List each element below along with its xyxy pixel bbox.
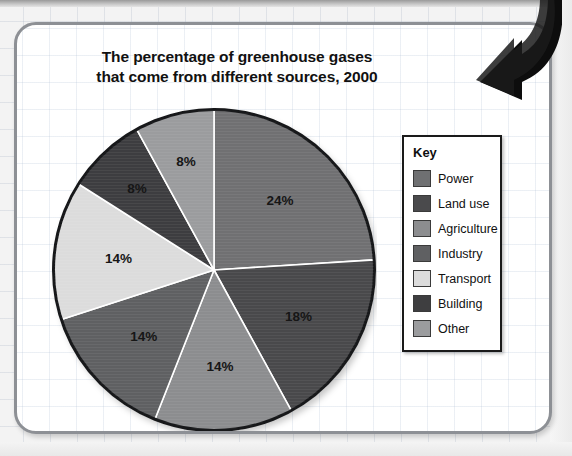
legend-item: Land use bbox=[413, 191, 492, 216]
legend-swatch bbox=[413, 320, 431, 337]
pie-slice bbox=[214, 110, 374, 271]
legend-item: Other bbox=[413, 316, 492, 341]
pie-slice-label: 8% bbox=[176, 154, 196, 169]
backdrop-top-band bbox=[0, 0, 572, 7]
pie-slice-label: 14% bbox=[206, 359, 233, 374]
legend-rows: PowerLand useAgricultureIndustryTranspor… bbox=[413, 166, 492, 341]
legend-item-label: Land use bbox=[438, 197, 489, 211]
legend-swatch bbox=[413, 170, 431, 187]
pie-slice-label: 8% bbox=[127, 181, 147, 196]
legend-item-label: Transport bbox=[438, 272, 491, 286]
legend: Key PowerLand useAgricultureIndustryTran… bbox=[402, 135, 502, 352]
chart-title-line-2: that come from different sources, 2000 bbox=[17, 67, 457, 87]
legend-swatch bbox=[413, 220, 431, 237]
pie-chart: 24%18%14%14%14%8%8% bbox=[51, 107, 377, 433]
legend-item: Transport bbox=[413, 266, 492, 291]
legend-item-label: Agriculture bbox=[438, 222, 498, 236]
pie-chart-svg: 24%18%14%14%14%8%8% bbox=[51, 107, 377, 433]
chart-title: The percentage of greenhouse gases that … bbox=[17, 47, 457, 88]
legend-item-label: Power bbox=[438, 172, 473, 186]
pie-slice-group bbox=[54, 110, 375, 431]
legend-item-label: Other bbox=[438, 322, 469, 336]
backdrop-bottom-band bbox=[0, 442, 572, 456]
pie-slice-label: 24% bbox=[266, 193, 293, 208]
legend-swatch bbox=[413, 270, 431, 287]
legend-title: Key bbox=[413, 145, 492, 160]
legend-item-label: Industry bbox=[438, 247, 482, 261]
pie-slice-label: 14% bbox=[105, 251, 132, 266]
legend-item: Power bbox=[413, 166, 492, 191]
legend-item: Building bbox=[413, 291, 492, 316]
backdrop-right-band bbox=[550, 0, 572, 456]
legend-item: Industry bbox=[413, 241, 492, 266]
chart-title-line-1: The percentage of greenhouse gases bbox=[17, 47, 457, 67]
legend-item: Agriculture bbox=[413, 216, 492, 241]
legend-swatch bbox=[413, 195, 431, 212]
pie-slice-label: 14% bbox=[130, 329, 157, 344]
legend-item-label: Building bbox=[438, 297, 482, 311]
chart-card: The percentage of greenhouse gases that … bbox=[14, 22, 552, 434]
legend-swatch bbox=[413, 245, 431, 262]
legend-swatch bbox=[413, 295, 431, 312]
pie-slice-label: 18% bbox=[285, 309, 312, 324]
